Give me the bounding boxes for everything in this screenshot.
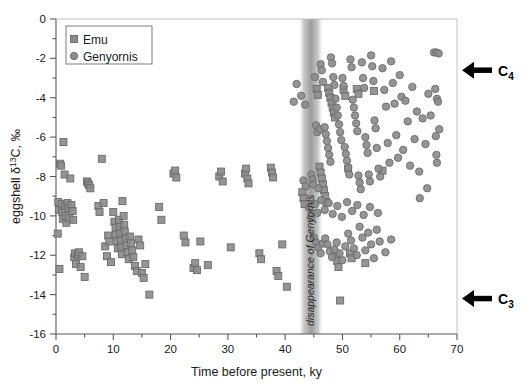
data-point-genyornis <box>373 226 380 233</box>
data-point-genyornis <box>433 151 440 158</box>
data-point-genyornis <box>433 159 440 166</box>
data-point-genyornis <box>342 243 349 250</box>
data-point-genyornis <box>347 56 354 63</box>
data-point-genyornis <box>331 81 338 88</box>
data-point-genyornis <box>362 247 369 254</box>
annotation-arrow-c4-label-subscript: 4 <box>508 71 514 82</box>
data-point-genyornis <box>389 79 396 86</box>
data-point-genyornis <box>329 210 336 217</box>
data-point-genyornis <box>409 83 416 90</box>
data-point-genyornis <box>354 201 361 208</box>
data-point-emu <box>67 175 74 182</box>
data-point-emu <box>192 260 199 267</box>
data-point-genyornis <box>382 249 389 256</box>
data-point-genyornis <box>340 82 347 89</box>
data-point-genyornis <box>364 149 371 156</box>
data-point-emu <box>337 297 344 304</box>
data-point-genyornis <box>343 198 350 205</box>
data-point-genyornis <box>424 185 431 192</box>
data-point-genyornis <box>413 108 420 115</box>
legend: EmuGenyornis <box>66 26 152 64</box>
data-point-genyornis <box>419 115 426 122</box>
data-point-emu <box>126 233 133 240</box>
data-point-emu <box>119 198 126 205</box>
data-point-genyornis <box>338 213 345 220</box>
data-point-emu <box>81 273 88 280</box>
data-point-genyornis <box>349 96 356 103</box>
data-point-emu <box>279 241 286 248</box>
data-point-emu <box>270 174 277 181</box>
data-point-emu <box>60 139 67 146</box>
data-point-genyornis <box>382 103 389 110</box>
data-point-genyornis <box>425 90 432 97</box>
data-point-genyornis <box>344 230 351 237</box>
data-point-emu <box>243 165 250 172</box>
data-point-genyornis <box>302 183 309 190</box>
data-point-genyornis <box>422 140 429 147</box>
data-point-genyornis <box>406 162 413 169</box>
data-point-emu <box>56 266 63 273</box>
x-tick-label: 60 <box>393 343 406 355</box>
data-point-genyornis <box>346 171 353 178</box>
data-point-emu <box>193 267 200 274</box>
y-tick-label: 0 <box>40 13 46 25</box>
data-point-genyornis <box>402 97 409 104</box>
data-point-genyornis <box>360 84 367 91</box>
legend-label-genyornis: Genyornis <box>83 50 138 64</box>
data-point-genyornis <box>387 58 394 65</box>
data-point-genyornis <box>415 168 422 175</box>
data-point-genyornis <box>360 211 367 218</box>
data-point-genyornis <box>376 238 383 245</box>
data-point-genyornis <box>315 185 322 192</box>
data-point-emu <box>283 283 290 290</box>
data-point-genyornis <box>327 158 334 165</box>
data-point-genyornis <box>326 151 333 158</box>
data-point-genyornis <box>297 92 304 99</box>
legend-marker-circle-genyornis <box>70 52 77 59</box>
data-point-emu <box>335 264 342 271</box>
data-point-emu <box>173 174 180 181</box>
data-point-genyornis <box>318 66 325 73</box>
data-point-genyornis <box>338 136 345 143</box>
data-point-emu <box>87 185 94 192</box>
data-point-genyornis <box>365 229 372 236</box>
data-point-genyornis <box>369 63 376 70</box>
legend-label-emu: Emu <box>83 33 108 47</box>
data-point-genyornis <box>367 241 374 248</box>
data-point-emu <box>130 254 137 261</box>
data-point-genyornis <box>371 117 378 124</box>
x-axis-title: Time before present, ky <box>191 365 323 379</box>
data-point-genyornis <box>324 144 331 151</box>
data-point-genyornis <box>343 157 350 164</box>
data-point-emu <box>314 91 321 98</box>
data-point-genyornis <box>335 121 342 128</box>
data-point-genyornis <box>411 135 418 142</box>
y-axis: 0-2-4-6-8-10-12-14-16 <box>29 13 56 340</box>
data-point-genyornis <box>366 178 373 185</box>
x-tick-label: 70 <box>451 343 464 355</box>
data-point-emu <box>137 242 144 249</box>
y-tick-label: -2 <box>36 52 46 64</box>
legend-marker-square-emu <box>71 36 78 43</box>
data-point-genyornis <box>434 98 441 105</box>
data-point-emu <box>107 259 114 266</box>
data-point-emu <box>245 180 252 187</box>
data-point-emu <box>180 232 187 239</box>
data-point-genyornis <box>325 199 332 206</box>
data-point-genyornis <box>333 104 340 111</box>
data-point-genyornis <box>290 98 297 105</box>
data-point-emu <box>120 212 127 219</box>
data-point-genyornis <box>366 203 373 210</box>
x-tick-label: 40 <box>279 343 292 355</box>
y-tick-label: -16 <box>29 328 46 340</box>
data-point-emu <box>355 90 362 97</box>
data-point-genyornis <box>332 95 339 102</box>
data-point-emu <box>100 200 107 207</box>
data-point-genyornis <box>377 173 384 180</box>
data-point-genyornis <box>328 60 335 67</box>
data-point-genyornis <box>347 237 354 244</box>
data-point-emu <box>146 291 153 298</box>
data-point-genyornis <box>336 129 343 136</box>
data-point-emu <box>204 262 211 269</box>
data-point-genyornis <box>301 101 308 108</box>
